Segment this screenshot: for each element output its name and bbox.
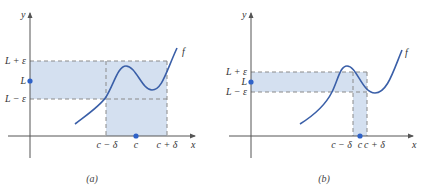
label-L-plus-epsilon-a: L + ε — [4, 55, 26, 66]
epsilon-band-a — [30, 61, 167, 99]
panel-a: y x f L + ε L L − ε c − δ c c + δ (a) — [4, 9, 196, 185]
curve-label-b: f — [405, 47, 409, 58]
label-c-a: c — [134, 139, 139, 150]
label-c-minus-delta-b: c − δ — [331, 139, 352, 150]
curve-label-a: f — [182, 46, 186, 57]
point-L-a — [27, 78, 32, 83]
panel-b: y x f L + ε L L − ε c − δ c c + δ (b) — [225, 9, 417, 185]
delta-band-b — [353, 92, 367, 136]
delta-band-a — [106, 99, 167, 136]
label-L-minus-epsilon-a: L − ε — [4, 93, 26, 104]
caption-b: (b) — [318, 173, 330, 185]
label-c-plus-delta-a: c + δ — [157, 139, 178, 150]
x-axis-label-a: x — [190, 139, 196, 150]
label-c-plus-delta-b: c + δ — [364, 139, 385, 150]
x-axis-label-b: x — [411, 139, 417, 150]
epsilon-band-b — [251, 72, 367, 92]
point-c-a — [133, 133, 138, 138]
label-L-minus-epsilon-b: L − ε — [225, 86, 247, 97]
point-L-b — [248, 79, 253, 84]
caption-a: (a) — [86, 173, 98, 185]
y-axis-label-a: y — [20, 9, 26, 20]
label-L-a: L — [19, 75, 26, 86]
label-c-minus-delta-a: c − δ — [97, 139, 118, 150]
point-c-b — [357, 133, 362, 138]
y-axis-label-b: y — [241, 9, 247, 20]
label-c-b: c — [358, 139, 363, 150]
epsilon-delta-limit-diagram: y x f L + ε L L − ε c − δ c c + δ (a) y — [0, 0, 423, 193]
